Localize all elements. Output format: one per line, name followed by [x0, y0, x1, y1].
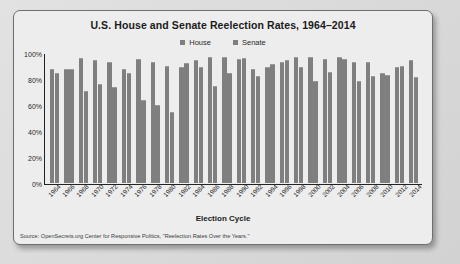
bar-senate-1972 [112, 87, 116, 182]
x-axis-tick-label: 2006 [350, 183, 365, 198]
x-axis-tick-label: 1992 [249, 183, 264, 198]
bar-senate-1986 [213, 86, 217, 182]
bar-house-1966 [64, 69, 68, 182]
legend-swatch-house [180, 40, 185, 45]
x-axis-tick-labels: 1964196619681970197219741976197819801982… [46, 187, 423, 194]
x-axis-tick: 1986 [206, 187, 220, 194]
bar-group [48, 54, 62, 183]
legend-entry-house: House [180, 38, 211, 47]
bar-house-2004 [337, 57, 341, 183]
x-axis-tick-label: 1990 [234, 183, 249, 198]
x-axis-tick-label: 1988 [220, 183, 235, 198]
x-axis-tick: 2008 [365, 187, 379, 194]
bar-senate-1976 [141, 100, 145, 182]
x-axis-tick-label: 1968 [75, 183, 90, 198]
bar-group [191, 54, 205, 183]
x-axis-tick: 1990 [235, 187, 249, 194]
x-axis-tick-label: 1970 [90, 183, 105, 198]
bar-group [119, 54, 133, 183]
bar-group [249, 54, 263, 183]
x-axis-tick-label: 1996 [278, 183, 293, 198]
x-axis-tick: 1992 [249, 187, 263, 194]
bar-house-1964 [50, 69, 54, 182]
x-axis-tick-label: 1972 [104, 183, 119, 198]
bar-group [177, 54, 191, 183]
bar-house-1978 [151, 62, 155, 183]
y-axis-tick-label: 80% [28, 77, 42, 84]
bar-group [205, 54, 219, 183]
bar-senate-1990 [242, 58, 246, 183]
bar-group [148, 54, 162, 183]
bar-senate-1964 [55, 73, 59, 182]
bar-group [292, 54, 306, 183]
bar-senate-2012 [400, 66, 404, 183]
x-axis-tick: 2014 [408, 187, 422, 194]
x-axis-tick: 1996 [278, 187, 292, 194]
chart-title: U.S. House and Senate Reelection Rates, … [14, 19, 432, 31]
x-axis-tick: 2000 [307, 187, 321, 194]
bar-group [234, 54, 248, 183]
bar-house-1984 [194, 60, 198, 182]
x-axis-tick-label: 2000 [307, 183, 322, 198]
bar-senate-1980 [170, 112, 174, 183]
bar-house-2000 [308, 57, 312, 183]
bar-group [335, 54, 349, 183]
x-axis-tick-label: 1998 [292, 183, 307, 198]
bar-group [406, 54, 420, 183]
x-axis-tick: 2004 [336, 187, 350, 194]
bar-senate-2004 [342, 59, 346, 182]
bar-group [105, 54, 119, 183]
x-axis-tick-label: 1994 [263, 183, 278, 198]
bar-senate-1978 [155, 105, 159, 182]
bar-senate-1988 [227, 73, 231, 182]
x-axis-tick: 1972 [104, 187, 118, 194]
bar-senate-2010 [385, 75, 389, 183]
bar-group [392, 54, 406, 183]
x-axis-tick-label: 2014 [408, 183, 423, 198]
x-axis-tick-label: 1986 [205, 183, 220, 198]
chart-legend: HouseSenate [14, 38, 432, 47]
plot-wrapper: 100%80%60%40%20%0% [44, 54, 422, 185]
x-axis-tick: 1998 [292, 187, 306, 194]
bar-senate-2000 [313, 81, 317, 183]
bar-house-1972 [107, 62, 111, 183]
x-axis-tick: 1966 [61, 187, 75, 194]
bar-senate-2006 [357, 81, 361, 183]
x-axis-tick-label: 2004 [336, 183, 351, 198]
bar-senate-1994 [270, 64, 274, 182]
y-axis-tick-label: 20% [28, 155, 42, 162]
bar-group [349, 54, 363, 183]
bar-group [134, 54, 148, 183]
x-axis-tick: 1982 [177, 187, 191, 194]
bar-group [363, 54, 377, 183]
bar-house-1992 [251, 69, 255, 182]
bar-senate-2014 [414, 77, 418, 182]
bar-group [162, 54, 176, 183]
x-axis-tick-label: 1976 [133, 183, 148, 198]
bar-house-2002 [323, 59, 327, 182]
bar-house-1982 [179, 67, 183, 183]
bar-house-2008 [366, 62, 370, 183]
bar-house-1974 [122, 69, 126, 182]
bar-house-2012 [395, 67, 399, 183]
y-axis-tick-label: 60% [28, 103, 42, 110]
x-axis-tick-label: 1964 [46, 183, 61, 198]
bar-senate-1968 [84, 91, 88, 182]
x-axis-tick-label: 2002 [321, 183, 336, 198]
bar-senate-1966 [69, 69, 73, 182]
bar-senate-1984 [199, 67, 203, 183]
x-axis-tick: 1968 [75, 187, 89, 194]
x-axis-tick-label: 2008 [364, 183, 379, 198]
bar-senate-1992 [256, 76, 260, 183]
chart-card: U.S. House and Senate Reelection Rates, … [14, 11, 432, 244]
bar-group [306, 54, 320, 183]
x-axis-tick-label: 1966 [61, 183, 76, 198]
legend-swatch-senate [233, 40, 238, 45]
bar-group [277, 54, 291, 183]
bar-senate-2002 [328, 72, 332, 183]
x-axis-tick-label: 2012 [393, 183, 408, 198]
x-axis-tick-label: 1984 [191, 183, 206, 198]
bar-group [320, 54, 334, 183]
bar-group [263, 54, 277, 183]
x-axis-tick: 1964 [47, 187, 61, 194]
